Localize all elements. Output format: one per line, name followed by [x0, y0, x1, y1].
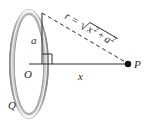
- charged-ring-figure: Q a O x P r = √ x 2 + a 2: [0, 0, 149, 129]
- label-radius-a: a: [31, 34, 37, 46]
- label-center-o: O: [24, 68, 32, 80]
- point-p-marker: [125, 61, 131, 67]
- label-charge-q: Q: [8, 99, 16, 111]
- label-point-p: P: [133, 58, 141, 70]
- label-axial-distance-x: x: [77, 70, 83, 82]
- label-r-equals: r =: [63, 9, 82, 27]
- distance-expression: r = √ x 2 + a 2: [62, 8, 119, 49]
- figure-drawing: Q a O x P r = √ x 2 + a 2: [0, 0, 149, 129]
- radical-expression: √ x 2 + a 2: [78, 17, 119, 49]
